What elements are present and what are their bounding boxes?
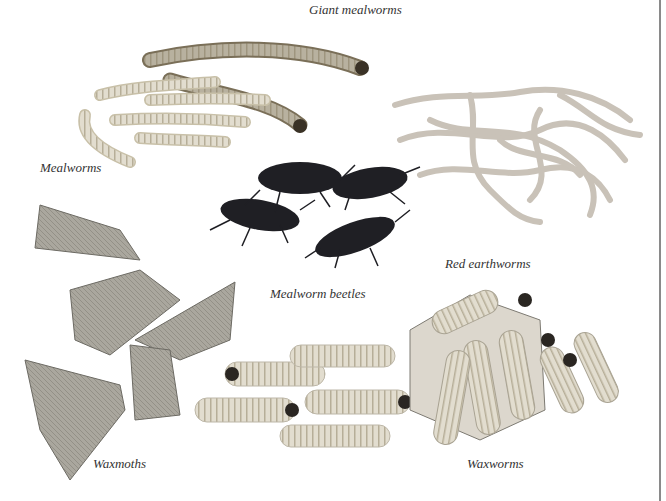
waxworm-larvae bbox=[195, 345, 412, 447]
waxmoths bbox=[25, 205, 235, 480]
page-edge-divider bbox=[659, 0, 661, 501]
illustration: Giant mealworms Mealworms Red earthworms… bbox=[0, 0, 666, 501]
mealworms bbox=[84, 82, 265, 162]
mealworm-beetles bbox=[210, 162, 420, 268]
red-earthworms bbox=[395, 90, 640, 222]
label-giant-mealworms: Giant mealworms bbox=[309, 2, 402, 18]
waxworms bbox=[428, 286, 622, 446]
label-mealworms: Mealworms bbox=[40, 160, 101, 176]
label-red-earthworms: Red earthworms bbox=[445, 256, 531, 272]
label-mealworm-beetles: Mealworm beetles bbox=[270, 286, 366, 302]
label-waxmoths: Waxmoths bbox=[93, 456, 146, 472]
label-waxworms: Waxworms bbox=[467, 456, 524, 472]
illustration-canvas bbox=[0, 0, 666, 501]
